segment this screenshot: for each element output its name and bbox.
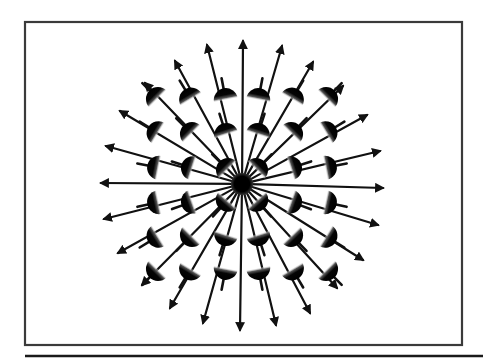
dipole-body — [282, 83, 309, 106]
dipole — [319, 226, 351, 258]
electric-field-diagram — [0, 0, 483, 363]
field-arrow — [244, 46, 282, 176]
dipole-body — [175, 262, 202, 285]
dipole — [208, 110, 238, 138]
dipole — [323, 152, 349, 180]
dipole — [168, 110, 201, 143]
field-arrow — [101, 183, 234, 184]
dipole-body — [323, 154, 339, 180]
central-charge — [231, 173, 253, 195]
dipole — [134, 75, 167, 108]
dipole-body — [286, 153, 305, 180]
dipole-body — [286, 190, 306, 217]
dipole-body — [211, 120, 238, 139]
dipole-body — [178, 190, 197, 217]
field-arrow — [106, 146, 234, 182]
dipole — [210, 266, 238, 292]
field-arrow — [207, 45, 240, 176]
dipole — [135, 190, 162, 218]
dipole — [286, 150, 315, 180]
dipole-body — [246, 86, 272, 102]
dipole — [246, 266, 274, 292]
dipole-body — [212, 86, 238, 102]
dipole — [169, 262, 201, 293]
dipole — [282, 227, 315, 260]
dipole-body — [246, 266, 272, 282]
field-arrow — [244, 192, 276, 325]
field-arrow — [240, 192, 242, 330]
dipole — [282, 110, 315, 143]
field-arrow — [250, 186, 378, 225]
dipole — [246, 230, 276, 258]
dipole-body — [145, 190, 162, 216]
field-arrow — [242, 41, 243, 176]
dipole-body — [142, 117, 165, 144]
dipole — [210, 76, 238, 102]
dipole-body — [319, 226, 342, 253]
dipole-body — [246, 230, 272, 249]
dipole — [318, 75, 351, 108]
field-arrow — [250, 184, 383, 188]
dipole — [133, 111, 164, 143]
dipole — [318, 261, 351, 294]
dipole — [282, 74, 314, 105]
field-arrow — [203, 192, 240, 323]
